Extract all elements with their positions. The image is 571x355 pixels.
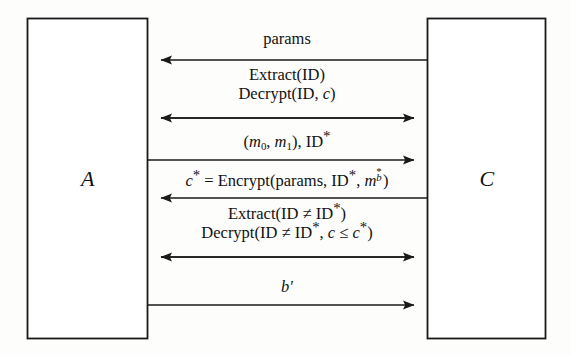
decrypt-text: Decrypt bbox=[201, 223, 254, 242]
id-text: ID bbox=[331, 171, 348, 190]
message-4-line-1: c* = Encrypt(params, ID*, m*b) bbox=[185, 171, 388, 190]
less-equal-sign: ≤ bbox=[339, 223, 348, 242]
rparen: ) bbox=[383, 171, 389, 190]
comma: , bbox=[356, 171, 360, 190]
var-c: c bbox=[328, 223, 335, 242]
message-2-line-2: Decrypt(ID, c) bbox=[238, 84, 335, 103]
message-label-2: Extract(ID) Decrypt(ID, c) bbox=[238, 65, 335, 103]
var-m: m bbox=[249, 132, 261, 151]
equals-sign: = bbox=[204, 171, 213, 190]
encrypt-text: Encrypt bbox=[218, 171, 270, 190]
decrypt-text: Decrypt bbox=[238, 84, 291, 103]
message-6-line-1: b′ bbox=[281, 277, 293, 296]
message-5-line-1: Extract(ID ≠ ID*) bbox=[201, 204, 372, 223]
message-3-line-1: (m0, m1), ID* bbox=[243, 132, 330, 151]
message-label-5: Extract(ID ≠ ID*) Decrypt(ID ≠ ID*, c ≤ … bbox=[201, 204, 372, 242]
comma: , bbox=[297, 132, 301, 151]
comma: , bbox=[315, 84, 319, 103]
not-equal-sign: ≠ bbox=[282, 223, 291, 242]
var-c: c bbox=[323, 84, 330, 103]
id-text: ID bbox=[295, 223, 312, 242]
star-glyph: * bbox=[360, 219, 367, 235]
message-label-3: (m0, m1), ID* bbox=[243, 132, 330, 151]
party-label-c: C bbox=[479, 166, 494, 192]
rparen: ) bbox=[330, 84, 336, 103]
star-glyph: * bbox=[323, 128, 330, 144]
var-m: m bbox=[275, 132, 287, 151]
m-sub-sup-cluster: *b bbox=[376, 172, 383, 183]
not-equal-sign: ≠ bbox=[303, 204, 312, 223]
subscript-b: b bbox=[376, 172, 383, 177]
comma: , bbox=[266, 132, 270, 151]
params-text: params bbox=[275, 171, 323, 190]
id-text: ID bbox=[306, 132, 323, 151]
star-glyph: * bbox=[193, 167, 200, 183]
star-glyph: * bbox=[349, 167, 356, 183]
protocol-sequence-diagram: A C params Extract(ID) Decrypt(ID, c) (m… bbox=[0, 0, 571, 355]
extract-text: Extract bbox=[228, 204, 276, 223]
message-2-line-1: Extract(ID) bbox=[238, 65, 335, 84]
party-label-a: A bbox=[81, 166, 95, 192]
var-m: m bbox=[364, 171, 376, 190]
extract-text: Extract bbox=[249, 65, 297, 84]
rparen: ) bbox=[320, 65, 326, 84]
rparen: ) bbox=[367, 223, 373, 242]
comma: , bbox=[323, 171, 327, 190]
message-1-line-1: params bbox=[263, 29, 311, 48]
message-label-6: b′ bbox=[281, 277, 293, 296]
id-text: ID bbox=[297, 84, 314, 103]
message-5-line-2: Decrypt(ID ≠ ID*, c ≤ c*) bbox=[201, 223, 372, 242]
id-text: ID bbox=[281, 204, 298, 223]
message-label-1: params bbox=[263, 29, 311, 48]
comma: , bbox=[320, 223, 324, 242]
id-text: ID bbox=[302, 65, 319, 84]
message-label-4: c* = Encrypt(params, ID*, m*b) bbox=[185, 171, 388, 190]
id-text: ID bbox=[260, 223, 277, 242]
rparen: ) bbox=[341, 204, 347, 223]
